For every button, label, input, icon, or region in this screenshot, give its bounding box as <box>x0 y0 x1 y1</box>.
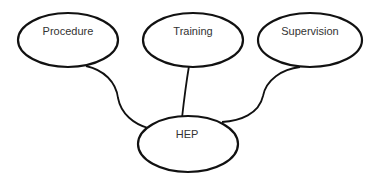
supervision-label: Supervision <box>281 25 338 37</box>
procedure-ellipse <box>18 13 118 67</box>
influence-diagram: Procedure Training Supervision HEP <box>0 0 377 179</box>
node-hep: HEP <box>138 116 238 172</box>
training-label: Training <box>173 25 212 37</box>
edge-supervision-to-hep <box>222 67 300 122</box>
hep-ellipse <box>138 116 238 172</box>
procedure-label: Procedure <box>43 25 94 37</box>
edge-procedure-to-hep <box>86 66 148 128</box>
node-training: Training <box>143 13 243 67</box>
node-procedure: Procedure <box>18 13 118 67</box>
training-ellipse <box>143 13 243 67</box>
node-supervision: Supervision <box>258 13 362 67</box>
hep-label: HEP <box>176 128 199 140</box>
supervision-ellipse <box>258 13 362 67</box>
edge-training-to-hep <box>182 66 189 118</box>
